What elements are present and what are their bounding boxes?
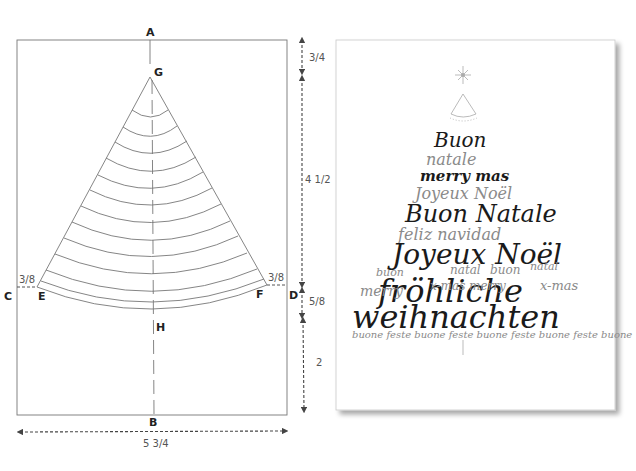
word-buon-natale: Buon Natale bbox=[404, 200, 557, 228]
dim-top-gap: 3/4 bbox=[309, 52, 325, 63]
word-buone-feste: buone feste buone feste buone feste buon… bbox=[352, 329, 632, 340]
point-label-d: D bbox=[289, 289, 298, 302]
point-label-f: F bbox=[256, 288, 264, 301]
point-label-b: B bbox=[149, 416, 157, 429]
word-natal-right: natal bbox=[530, 260, 559, 273]
word-merry: merry bbox=[360, 283, 404, 299]
point-label-a: A bbox=[146, 26, 155, 39]
inner-band-arc bbox=[41, 279, 264, 302]
diagram-canvas: 3/8 3/8 A G C E F D H B 3/4 4 1/2 5/8 2 … bbox=[0, 0, 636, 471]
template-diagram: 3/8 3/8 A G C E F D H B 3/4 4 1/2 5/8 2 … bbox=[4, 26, 331, 449]
dim-cone-height: 4 1/2 bbox=[305, 174, 331, 185]
word-xmas-merry: x-mas merry bbox=[430, 279, 506, 293]
point-label-c: C bbox=[4, 290, 12, 303]
word-merry-mas: merry mas bbox=[420, 167, 510, 185]
word-xmas: x-mas bbox=[540, 278, 579, 293]
dim-width: 5 3/4 bbox=[143, 438, 169, 449]
point-label-e: E bbox=[38, 290, 46, 303]
horizontal-dimension bbox=[20, 431, 285, 432]
vertical-dimension bbox=[302, 40, 304, 410]
word-buon: Buon bbox=[433, 128, 487, 152]
finished-card: Buon natale merry mas Joyeux Noël Buon N… bbox=[336, 40, 632, 410]
cone-right-edge bbox=[150, 77, 267, 285]
dim-bottom-gap: 2 bbox=[316, 357, 322, 368]
center-line-dashed bbox=[152, 80, 154, 415]
point-label-h: H bbox=[156, 321, 165, 334]
point-label-g: G bbox=[154, 66, 163, 79]
template-rectangle bbox=[17, 40, 287, 415]
left-offset-label: 3/8 bbox=[19, 274, 35, 285]
dim-arc-depth: 5/8 bbox=[309, 296, 325, 307]
right-offset-label: 3/8 bbox=[268, 272, 284, 283]
cone-arcs bbox=[37, 110, 267, 309]
